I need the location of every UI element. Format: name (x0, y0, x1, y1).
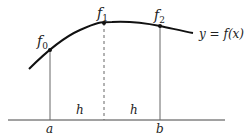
interval-label-h-right: h (130, 103, 138, 117)
label-f2: f2 (153, 7, 165, 25)
label-f0: f0 (36, 33, 48, 51)
diagram-svg: f0 f1 f2 y = f(x) h h a b (0, 0, 250, 136)
axis-label-a: a (46, 122, 53, 136)
point-f0 (48, 48, 52, 52)
axis-label-b: b (156, 122, 164, 136)
curve-f-of-x (29, 22, 193, 69)
curve-label: y = f(x) (198, 27, 244, 41)
interval-label-h-left: h (76, 103, 84, 117)
label-f1: f1 (96, 5, 108, 23)
simpson-rule-diagram: f0 f1 f2 y = f(x) h h a b (0, 0, 250, 136)
